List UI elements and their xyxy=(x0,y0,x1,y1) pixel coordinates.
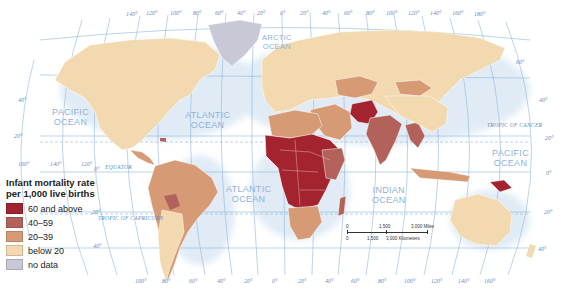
legend-item-60-above: 60 and above xyxy=(6,202,102,215)
scale-tick xyxy=(347,230,348,234)
ocean-label-pacific-east: PACIFIC OCEAN xyxy=(492,148,529,168)
region-indonesia xyxy=(410,168,470,182)
tropic-of-cancer-label: TROPIC OF CANCER xyxy=(487,122,542,128)
legend-item-no-data: no data xyxy=(6,258,102,271)
legend-swatch xyxy=(6,217,23,228)
lon-label-160: 160° xyxy=(18,161,29,167)
ocean-label-atlantic-south: ATLANTIC OCEAN xyxy=(226,184,271,204)
legend-title-line2: per 1,000 live births xyxy=(6,188,102,199)
ocean-label-atlantic-north: ATLANTIC OCEAN xyxy=(185,110,230,130)
ocean-label-indian: INDIAN OCEAN xyxy=(372,185,406,205)
legend-item-40-59: 40–59 xyxy=(6,216,102,229)
lon-label-140: 140° xyxy=(50,161,61,167)
legend-swatch xyxy=(6,231,23,242)
scale-tick xyxy=(386,230,387,234)
region-central-america xyxy=(130,150,155,165)
scale-tick xyxy=(427,230,428,234)
legend-item-below-20: below 20 xyxy=(6,244,102,257)
scale-line xyxy=(347,232,427,233)
tropic-of-capricorn-label: TROPIC OF CAPRICORN xyxy=(98,215,163,221)
scale-bar: 0 1,500 3,000 Miles 0 1,500 3,000 Kilome… xyxy=(344,224,434,246)
lon-label-120: 120° xyxy=(81,161,92,167)
legend-swatch xyxy=(6,245,23,256)
legend-title-line1: Infant mortality rate xyxy=(6,177,102,188)
equator-label: EQUATOR xyxy=(105,164,132,170)
legend: Infant mortality rate per 1,000 live bir… xyxy=(6,177,102,271)
legend-swatch xyxy=(6,259,23,270)
ocean-label-arctic: ARCTIC OCEAN xyxy=(262,33,292,51)
legend-item-20-39: 20–39 xyxy=(6,230,102,243)
ocean-label-pacific-west: PACIFIC OCEAN xyxy=(52,107,89,127)
region-new-zealand xyxy=(526,244,536,258)
legend-swatch xyxy=(6,203,23,214)
